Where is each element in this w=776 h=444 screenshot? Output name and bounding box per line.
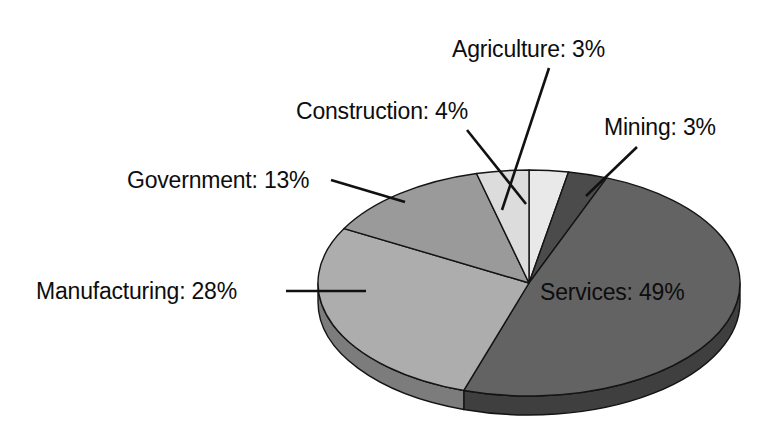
slice-label-government: Government: 13% bbox=[127, 167, 309, 193]
slice-label-construction: Construction: 4% bbox=[296, 98, 468, 124]
slice-label-manufacturing: Manufacturing: 28% bbox=[36, 278, 237, 304]
slice-label-services: Services: 49% bbox=[540, 279, 684, 305]
slice-label-agriculture: Agriculture: 3% bbox=[452, 36, 605, 62]
pie-chart-figure: Agriculture: 3%Mining: 3%Services: 49%Ma… bbox=[0, 0, 776, 444]
leader-line-government bbox=[331, 180, 405, 202]
slice-label-mining: Mining: 3% bbox=[604, 114, 716, 140]
pie-chart-svg: Agriculture: 3%Mining: 3%Services: 49%Ma… bbox=[0, 0, 776, 444]
